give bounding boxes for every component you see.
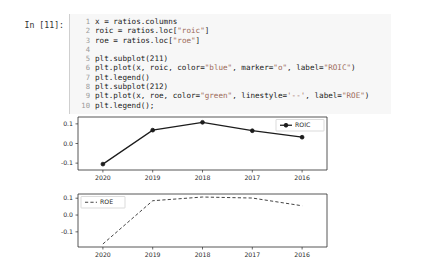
line-number: 10 (70, 101, 95, 110)
chart-roe-series (103, 197, 302, 244)
code-line: 1x = ratios.columns (70, 17, 391, 26)
line-number: 1 (70, 17, 95, 26)
legend-marker-sample (284, 123, 288, 127)
x-tick-label: 2016 (294, 251, 310, 258)
x-tick-label: 2020 (95, 251, 111, 258)
y-tick-label: 0.0 (63, 140, 73, 147)
series-line-roe (103, 197, 302, 244)
chart-roic-legend: ROIC (276, 120, 324, 132)
code-line: 4 (70, 45, 391, 54)
code-line: 9plt.plot(x, roe, color="green", linesty… (70, 91, 391, 100)
x-tick-label: 2018 (195, 174, 211, 181)
chart-roe-legend: ROE (81, 197, 125, 209)
code-line-text: plt.subplot(212) (95, 82, 168, 91)
chart-roic-series (101, 120, 304, 166)
y-tick-label: -0.1 (61, 228, 73, 235)
x-tick-label: 2017 (244, 251, 260, 258)
series-line-roic (103, 122, 302, 164)
chart-roic: 0.10.0-0.1 20202019201820172016 ROIC (0, 112, 424, 190)
x-tick-label: 2019 (145, 251, 161, 258)
notebook-code-cell[interactable]: In [11]: 1x = ratios.columns2roic = rati… (0, 14, 424, 114)
line-number: 5 (70, 54, 95, 63)
x-tick-label: 2018 (195, 251, 211, 258)
code-lines-container: 1x = ratios.columns2roic = ratios.loc["r… (70, 17, 391, 110)
x-tick-label: 2019 (145, 174, 161, 181)
y-tick-label: 0.1 (63, 120, 73, 127)
line-number: 4 (70, 45, 95, 54)
code-line-text: plt.plot(x, roe, color="green", linestyl… (95, 91, 369, 100)
chart-roe-x-ticks: 20202019201820172016 (95, 247, 310, 258)
line-number: 9 (70, 91, 95, 100)
legend-label: ROE (100, 198, 113, 205)
code-line: 5plt.subplot(211) (70, 54, 391, 63)
x-tick-label: 2020 (95, 174, 111, 181)
code-line: 6plt.plot(x, roic, color="blue", marker=… (70, 63, 391, 72)
line-number: 2 (70, 26, 95, 35)
chart-roic-y-ticks: 0.10.0-0.1 (61, 120, 78, 166)
chart-roic-x-ticks: 20202019201820172016 (95, 170, 310, 181)
line-number: 3 (70, 36, 95, 45)
execution-count-prompt: In [11]: (14, 20, 64, 30)
data-point-marker (101, 162, 105, 166)
line-number: 8 (70, 82, 95, 91)
code-line-text: plt.legend() (95, 73, 150, 82)
code-line: 10plt.legend(); (70, 101, 391, 110)
code-line: 2roic = ratios.loc["roic"] (70, 26, 391, 35)
line-number: 6 (70, 63, 95, 72)
code-line-text: roe = ratios.loc["roe"] (95, 36, 200, 45)
matplotlib-figure-output: 0.10.0-0.1 20202019201820172016 ROIC 0.1… (0, 112, 424, 267)
x-tick-label: 2016 (294, 174, 310, 181)
code-line-text: plt.subplot(211) (95, 54, 168, 63)
code-line: 7plt.legend() (70, 73, 391, 82)
code-editor-area[interactable]: 1x = ratios.columns2roic = ratios.loc["r… (69, 14, 391, 114)
code-line-text: plt.plot(x, roic, color="blue", marker="… (95, 63, 356, 72)
code-line-text: x = ratios.columns (95, 17, 177, 26)
code-line: 8plt.subplot(212) (70, 82, 391, 91)
code-line: 3roe = ratios.loc["roe"] (70, 36, 391, 45)
chart-roe-y-ticks: 0.10.0-0.1 (61, 194, 78, 235)
chart-roe: 0.10.0-0.1 20202019201820172016 ROE (0, 190, 424, 267)
data-point-marker (300, 135, 304, 139)
y-tick-label: 0.0 (63, 211, 73, 218)
data-point-marker (201, 120, 205, 124)
x-tick-label: 2017 (244, 174, 260, 181)
data-point-marker (151, 128, 155, 132)
y-tick-label: -0.1 (61, 159, 73, 166)
code-line-text: roic = ratios.loc["roic"] (95, 26, 209, 35)
y-tick-label: 0.1 (63, 194, 73, 201)
data-point-marker (250, 129, 254, 133)
legend-label: ROIC (295, 121, 310, 128)
line-number: 7 (70, 73, 95, 82)
code-line-text: plt.legend(); (95, 101, 154, 110)
